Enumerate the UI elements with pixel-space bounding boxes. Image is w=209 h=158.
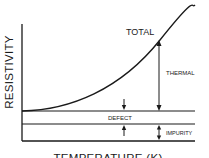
defect-arrowhead-top: [122, 105, 126, 110]
defect-arrowhead-bottom: [122, 125, 126, 130]
resistivity-diagram: RESISTIVITY TEMPERATURE (K) TOTAL THERMA…: [0, 0, 209, 158]
thermal-arrowhead-bottom: [157, 105, 162, 111]
total-label: TOTAL: [126, 27, 154, 37]
impurity-arrowhead-bottom: [157, 136, 161, 141]
impurity-label: IMPURITY: [166, 130, 193, 136]
defect-label: DEFECT: [108, 115, 132, 121]
y-axis-label: RESISTIVITY: [3, 35, 15, 109]
impurity-arrowhead-top: [157, 125, 161, 130]
x-axis-label: TEMPERATURE (K): [53, 152, 162, 158]
thermal-label: THERMAL: [166, 70, 195, 76]
total-curve: [22, 5, 195, 111]
